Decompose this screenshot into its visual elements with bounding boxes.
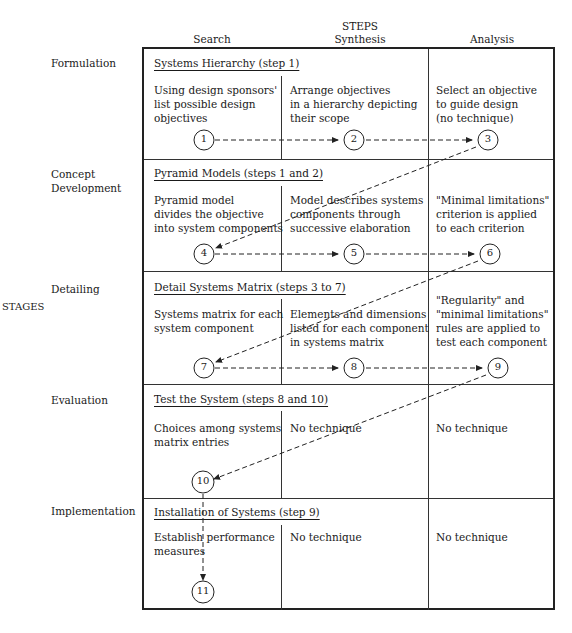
step-node-label: 1 [194, 133, 214, 144]
flow-overlay [0, 0, 572, 633]
step-node-label: 2 [344, 133, 364, 144]
step-node-label: 11 [191, 585, 215, 596]
step-node-label: 6 [480, 247, 500, 258]
flow-arrow-3-4 [216, 147, 476, 248]
step-node-label: 9 [488, 361, 508, 372]
step-node-label: 3 [478, 133, 498, 144]
step-node-label: 8 [344, 361, 364, 372]
step-node-label: 10 [191, 475, 215, 486]
step-node-label: 4 [194, 247, 214, 258]
step-node-label: 7 [194, 361, 214, 372]
flow-arrow-9-10 [214, 375, 486, 479]
step-node-label: 5 [344, 247, 364, 258]
flow-arrow-6-7 [216, 261, 478, 362]
